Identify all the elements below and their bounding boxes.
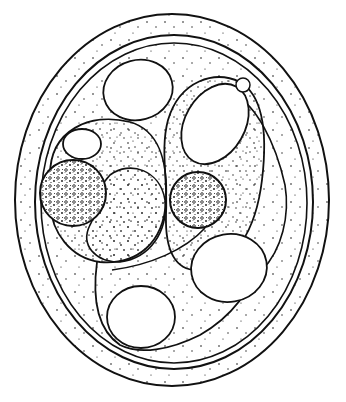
- residual-body-right: [170, 172, 226, 228]
- oocyst-illustration: [0, 0, 346, 402]
- residual-body-left: [40, 160, 106, 226]
- sporozoite-bottom: [107, 286, 175, 348]
- sporozoite-small-left: [63, 129, 101, 159]
- illustration-canvas: [0, 0, 346, 402]
- sporozoite-tip-knob: [236, 78, 250, 92]
